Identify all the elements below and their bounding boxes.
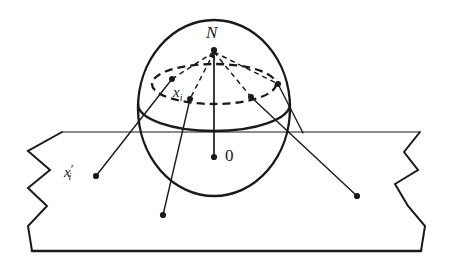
sphere-point-right-lower	[248, 94, 254, 100]
label-projected-point-x-prime-i: x′i	[64, 162, 71, 182]
dashed-ray-3	[214, 52, 251, 97]
label-point-xi: xi	[173, 85, 182, 103]
figure-canvas: N 0 xi x′i	[0, 0, 453, 269]
label-xi-subscript: i	[180, 92, 183, 103]
sphere-point-right-upper	[275, 81, 281, 87]
label-x-prime-subscript: i	[69, 171, 72, 182]
north-pole-point	[211, 47, 217, 53]
plane-point-x-prime-i	[93, 173, 99, 179]
plane-point-bottom	[160, 212, 166, 218]
label-north-pole: N	[206, 24, 217, 41]
origin-point	[211, 154, 217, 160]
label-origin: 0	[225, 147, 234, 164]
stereographic-projection-figure	[0, 0, 453, 269]
dashed-rays-from-north-pole	[172, 52, 278, 99]
plane-point-right	[354, 193, 360, 199]
sphere-point-xi	[187, 96, 193, 102]
sphere-point-xi-upper	[169, 76, 175, 82]
label-xi-base: x	[173, 84, 180, 100]
label-x-prime-mark: ′	[71, 161, 74, 176]
